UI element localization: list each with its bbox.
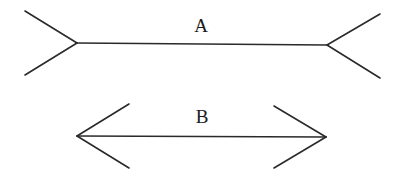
right-fin-b-1	[274, 137, 326, 168]
right-fin-a-1	[327, 45, 380, 78]
left-fin-a-0	[25, 11, 77, 43]
muller-lyer-diagram: A B	[0, 0, 401, 183]
left-fin-b-1	[77, 136, 129, 168]
left-fin-a-1	[25, 43, 77, 75]
shaft-b	[77, 136, 326, 137]
label-a: A	[194, 16, 208, 35]
label-b: B	[196, 107, 209, 126]
left-fin-b-0	[77, 104, 129, 136]
right-fin-a-0	[327, 14, 380, 45]
right-fin-b-0	[274, 106, 326, 137]
shaft-a	[77, 43, 327, 45]
